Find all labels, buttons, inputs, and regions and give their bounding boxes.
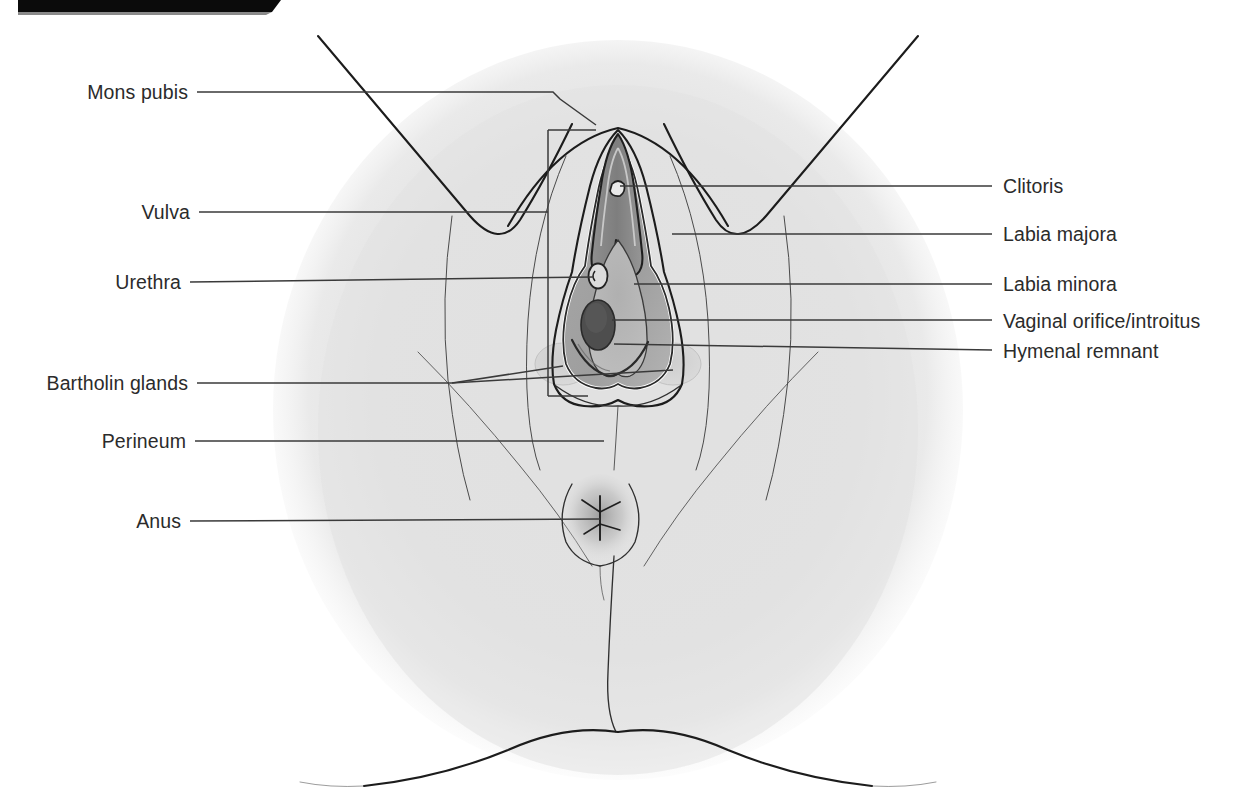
label-vaginal-orifice: Vaginal orifice/introitus	[1003, 310, 1200, 332]
vaginal-orifice	[581, 300, 615, 350]
label-bartholin-glands: Bartholin glands	[47, 372, 189, 394]
label-perineum: Perineum	[102, 430, 186, 452]
label-anus: Anus	[136, 510, 181, 532]
urethral-orifice	[589, 264, 608, 289]
label-urethra: Urethra	[115, 271, 181, 293]
anatomy-illustration: Mons pubis Vulva Urethra Bartholin gland…	[0, 0, 1246, 811]
anatomy-figure: Mons pubis Vulva Urethra Bartholin gland…	[0, 0, 1246, 811]
label-mons-pubis: Mons pubis	[87, 81, 188, 103]
label-labia-minora: Labia minora	[1003, 273, 1117, 295]
label-hymenal-remnant: Hymenal remnant	[1003, 340, 1159, 362]
label-labia-majora: Labia majora	[1003, 223, 1117, 245]
label-vulva: Vulva	[141, 201, 190, 223]
label-clitoris: Clitoris	[1003, 175, 1064, 197]
labels-left-group: Mons pubis Vulva Urethra Bartholin gland…	[47, 81, 191, 532]
labels-right-group: Clitoris Labia majora Labia minora Vagin…	[1003, 175, 1200, 362]
clitoris	[610, 181, 625, 196]
top-black-bar	[18, 0, 281, 15]
